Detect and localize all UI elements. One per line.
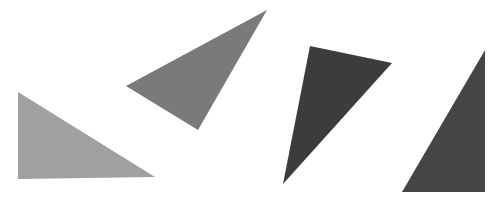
triangle-medium-gray [126,10,267,130]
shapes-canvas [0,0,502,200]
triangle-right-angle-dark [402,50,485,192]
triangle-light-gray [18,92,155,179]
triangle-dark-gray [283,46,392,184]
